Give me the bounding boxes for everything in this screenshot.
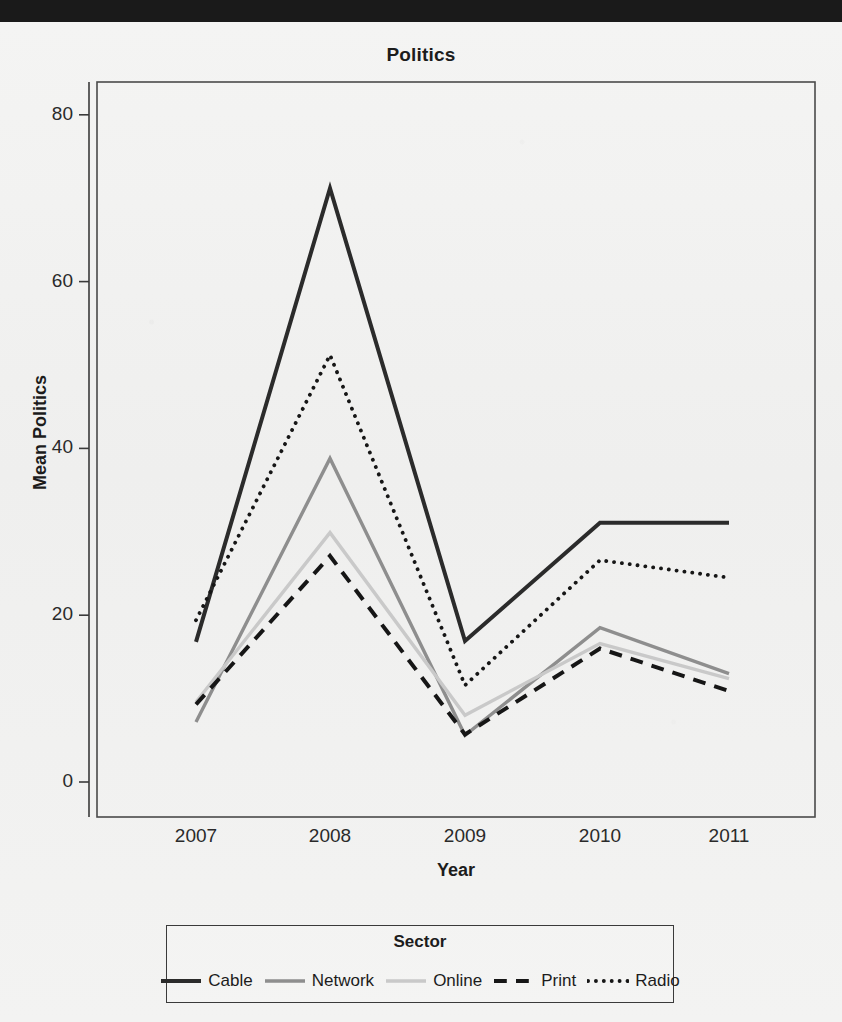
- legend-label: Online: [433, 971, 482, 991]
- window-top-bar: [0, 0, 842, 22]
- legend-key-network-icon: [264, 974, 306, 988]
- legend: Sector CableNetworkOnlinePrintRadio: [166, 925, 674, 1003]
- legend-label: Cable: [208, 971, 252, 991]
- x-tick-label: 2007: [156, 825, 236, 847]
- legend-item-network[interactable]: Network: [264, 971, 374, 991]
- y-tick-label: 40: [13, 436, 73, 458]
- y-tick-label: 80: [13, 103, 73, 125]
- y-axis-ticks: [79, 115, 89, 782]
- y-tick-label: 0: [13, 770, 73, 792]
- data-series-layer: [196, 188, 729, 735]
- legend-item-cable[interactable]: Cable: [160, 971, 252, 991]
- legend-label: Network: [312, 971, 374, 991]
- legend-key-cable-icon: [160, 974, 202, 988]
- legend-label: Print: [541, 971, 576, 991]
- legend-key-radio-icon: [587, 974, 629, 988]
- legend-items: CableNetworkOnlinePrintRadio: [167, 964, 673, 998]
- series-line-network: [196, 458, 729, 735]
- x-tick-label: 2011: [689, 825, 769, 847]
- y-tick-label: 60: [13, 270, 73, 292]
- x-tick-label: 2010: [560, 825, 640, 847]
- y-tick-label: 20: [13, 603, 73, 625]
- x-tick-label: 2008: [290, 825, 370, 847]
- x-tick-label: 2009: [425, 825, 505, 847]
- plot-canvas: [0, 22, 842, 1022]
- legend-label: Radio: [635, 971, 679, 991]
- legend-key-print-icon: [493, 974, 535, 988]
- legend-item-online[interactable]: Online: [385, 971, 482, 991]
- screenshot-page: Politics Mean Politics Year 020406080 20…: [0, 0, 842, 1022]
- legend-item-print[interactable]: Print: [493, 971, 576, 991]
- legend-item-radio[interactable]: Radio: [587, 971, 679, 991]
- legend-title: Sector: [167, 932, 673, 952]
- chart-figure: Politics Mean Politics Year 020406080 20…: [0, 22, 842, 1022]
- series-line-online: [196, 533, 729, 716]
- legend-key-online-icon: [385, 974, 427, 988]
- series-line-cable: [196, 188, 729, 642]
